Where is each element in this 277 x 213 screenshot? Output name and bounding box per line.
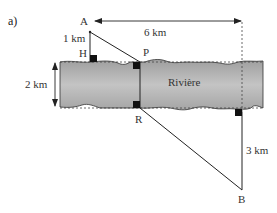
label-6km: 6 km bbox=[144, 26, 167, 38]
right-angle-H-icon bbox=[90, 55, 97, 62]
right-angle-B-icon bbox=[235, 109, 242, 116]
label-R: R bbox=[135, 113, 143, 125]
label-B: B bbox=[238, 193, 245, 205]
label-3km: 3 km bbox=[246, 144, 269, 156]
part-label: a) bbox=[8, 14, 17, 28]
label-river: Rivière bbox=[168, 76, 200, 88]
label-1km: 1 km bbox=[63, 32, 86, 44]
label-2km: 2 km bbox=[25, 78, 48, 90]
river bbox=[60, 59, 263, 109]
label-A: A bbox=[80, 15, 88, 27]
right-angle-R-icon bbox=[133, 101, 140, 108]
point-A-dot bbox=[89, 31, 91, 33]
label-H: H bbox=[79, 47, 87, 59]
segment-RB bbox=[140, 108, 242, 190]
label-P: P bbox=[143, 46, 149, 58]
right-angle-P-icon bbox=[133, 62, 140, 69]
segment-AP bbox=[90, 32, 140, 62]
river-crossing-diagram: a) A 6 km 1 km H P 2 km Rivière R 3 km B bbox=[0, 0, 277, 213]
river-band bbox=[60, 59, 263, 109]
